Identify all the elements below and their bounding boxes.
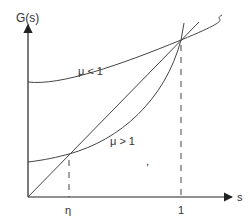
generating-function-plot bbox=[0, 0, 252, 220]
diagonal-line bbox=[28, 22, 199, 197]
tick-one: 1 bbox=[178, 205, 184, 216]
stray-mark: , bbox=[146, 156, 149, 167]
tick-eta: η bbox=[65, 205, 71, 216]
curve-mu-less-than-1 bbox=[28, 15, 222, 82]
label-mu-less: μ < 1 bbox=[78, 66, 103, 77]
label-mu-greater: μ > 1 bbox=[110, 136, 135, 147]
y-axis-label: G(s) bbox=[16, 12, 39, 24]
x-axis-label: s bbox=[237, 192, 243, 203]
curve-mu-greater-than-1 bbox=[28, 23, 184, 162]
